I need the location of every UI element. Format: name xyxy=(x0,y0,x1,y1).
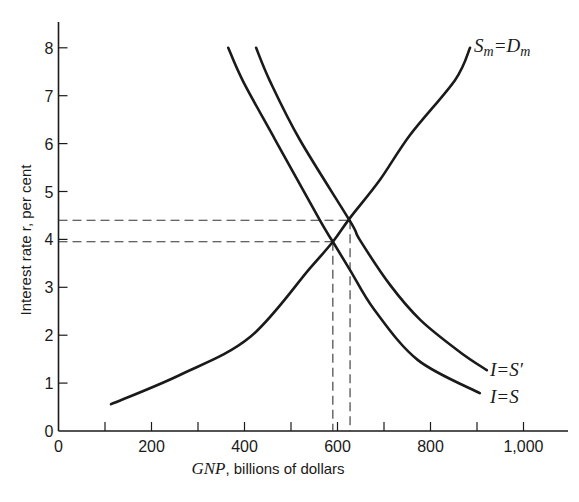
is-lm-chart: 01234567802004006008001,000 Interest rat… xyxy=(0,0,579,502)
label-sm-dm-eq: =D xyxy=(494,35,521,56)
curves xyxy=(111,48,487,404)
label-sm-dm-sub1: m xyxy=(484,44,494,59)
x-tick-label: 400 xyxy=(231,438,258,455)
x-tick-label: 0 xyxy=(54,438,63,455)
y-tick-label: 6 xyxy=(45,136,54,153)
x-tick-label: 1,000 xyxy=(503,438,543,455)
curve-i-equals-s-prime xyxy=(256,48,487,370)
y-tick-label: 0 xyxy=(45,423,54,440)
x-tick-label: 200 xyxy=(138,438,165,455)
y-tick-label: 7 xyxy=(45,88,54,105)
y-tick-label: 3 xyxy=(45,279,54,296)
y-tick-label: 2 xyxy=(45,327,54,344)
equilibrium-guides xyxy=(59,220,351,431)
x-tick-label: 800 xyxy=(417,438,444,455)
x-axis-title-gnp: GNP xyxy=(191,459,225,478)
y-tick-label: 5 xyxy=(45,184,54,201)
x-axis-title-rest: , billions of dollars xyxy=(225,460,344,477)
label-sm-dm-sub2: m xyxy=(520,44,530,59)
y-tick-label: 1 xyxy=(45,375,54,392)
label-sm-dm: Sm=Dm xyxy=(474,35,530,59)
label-sm-dm-s: S xyxy=(474,35,484,56)
label-i-s-prime: I=S′ xyxy=(489,359,524,380)
x-axis-title: GNP, billions of dollars xyxy=(191,459,344,478)
y-tick-label: 8 xyxy=(45,40,54,57)
curve-i-equals-s xyxy=(228,48,480,393)
x-tick-label: 600 xyxy=(324,438,351,455)
curve-sm-equals-dm xyxy=(111,48,470,404)
label-i-s: I=S xyxy=(489,386,519,407)
y-tick-label: 4 xyxy=(45,231,54,248)
y-axis-title: Interest rate r, per cent xyxy=(17,164,34,316)
